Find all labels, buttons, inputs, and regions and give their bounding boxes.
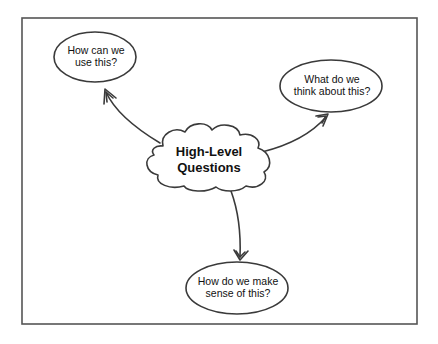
node-think: What do we think about this? bbox=[280, 60, 382, 112]
center-label-line1: High-Level bbox=[176, 144, 242, 159]
node-think-line1: What do we bbox=[304, 73, 360, 85]
node-use-line2: use this? bbox=[75, 56, 117, 68]
node-use: How can we use this? bbox=[54, 32, 136, 82]
concept-diagram: High-Level Questions How can we use this… bbox=[0, 0, 438, 344]
node-use-line1: How can we bbox=[67, 44, 124, 56]
node-sense: How do we make sense of this? bbox=[186, 262, 288, 314]
node-sense-line1: How do we make bbox=[198, 275, 279, 287]
center-label-line2: Questions bbox=[177, 160, 241, 175]
node-sense-line2: sense of this? bbox=[206, 287, 271, 299]
node-think-line2: think about this? bbox=[294, 85, 371, 97]
